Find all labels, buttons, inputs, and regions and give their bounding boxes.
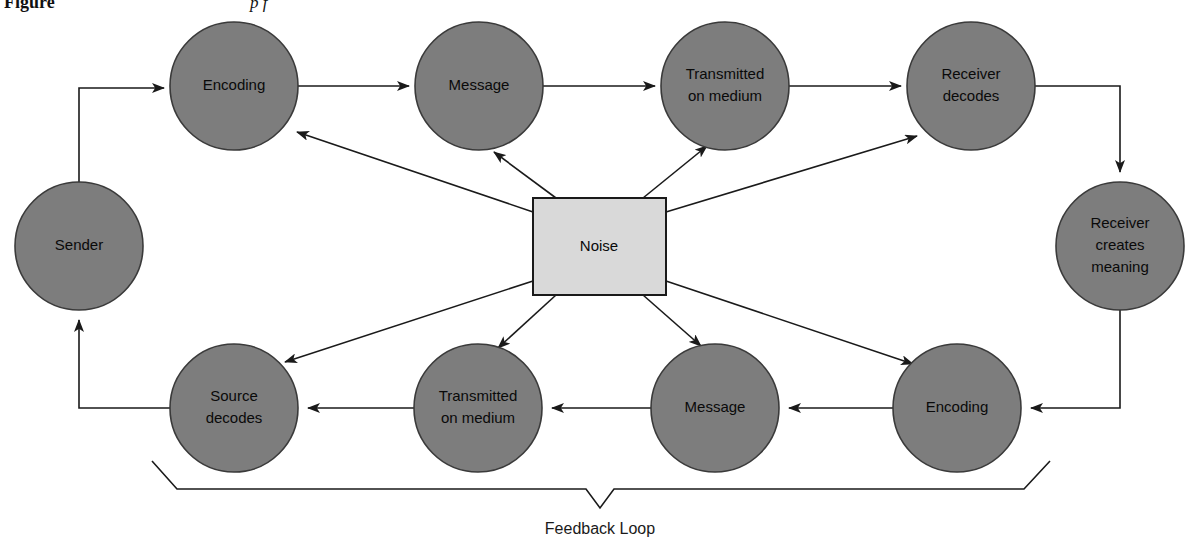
node-label-line-2: decodes <box>206 409 263 426</box>
edge-source-decodes-to-sender <box>79 320 170 408</box>
figure-caption-text: p f <box>249 0 270 12</box>
node-label-line-2: decodes <box>943 87 1000 104</box>
node-label-line-1: Receiver <box>1090 214 1149 231</box>
brace-path <box>152 461 1050 508</box>
node-label: Message <box>685 398 746 415</box>
node-receiver-creates-meaning[interactable]: Receiver creates meaning <box>1056 182 1184 310</box>
node-label-line-1: Receiver <box>941 65 1000 82</box>
feedback-loop-label: Feedback Loop <box>545 520 655 537</box>
figure-container: Figure p f <box>0 0 1192 544</box>
node-source-decodes[interactable]: Source decodes <box>170 344 298 472</box>
noise-ray-to-receiver-decodes <box>666 136 917 212</box>
node-transmitted-top[interactable]: Transmitted on medium <box>661 22 789 150</box>
node-label: Sender <box>55 236 103 253</box>
edge-sender-to-encoding <box>79 88 164 182</box>
node-label-line-2: creates <box>1095 236 1144 253</box>
node-label-line-1: Transmitted <box>439 387 518 404</box>
node-receiver-decodes[interactable]: Receiver decodes <box>907 22 1035 150</box>
node-label-line-2: on medium <box>688 87 762 104</box>
node-transmitted-bottom[interactable]: Transmitted on medium <box>414 344 542 472</box>
node-message-bottom[interactable]: Message <box>651 344 779 472</box>
edge-receiver-decodes-to-meaning <box>1035 86 1120 172</box>
node-encoding-bottom[interactable]: Encoding <box>893 344 1021 472</box>
node-label-line-1: Source <box>210 387 258 404</box>
node-label-line-2: on medium <box>441 409 515 426</box>
node-noise[interactable]: Noise <box>533 198 666 295</box>
noise-ray-to-message-top <box>494 152 556 198</box>
noise-ray-to-transmitted-bottom <box>498 295 556 348</box>
noise-ray-to-transmitted-top <box>643 146 707 198</box>
node-message-top[interactable]: Message <box>415 22 543 150</box>
node-sender[interactable]: Sender <box>15 182 143 310</box>
node-label: Encoding <box>203 76 266 93</box>
node-encoding-top[interactable]: Encoding <box>170 22 298 150</box>
noise-ray-to-message-bottom <box>643 295 701 346</box>
communication-model-diagram: Figure p f <box>0 0 1192 544</box>
edge-meaning-to-encoding <box>1031 310 1120 408</box>
node-label: Encoding <box>926 398 989 415</box>
feedback-loop-brace <box>152 461 1050 508</box>
node-label: Noise <box>580 237 618 254</box>
figure-caption-label: Figure <box>4 0 55 12</box>
figure-caption: Figure p f <box>4 0 270 12</box>
node-label-line-3: meaning <box>1091 258 1149 275</box>
node-label: Message <box>449 76 510 93</box>
node-label-line-1: Transmitted <box>686 65 765 82</box>
